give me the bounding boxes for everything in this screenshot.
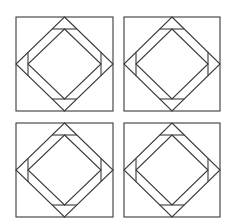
inner-diamond — [136, 135, 208, 205]
tile-top-left — [15, 16, 114, 112]
outer-square — [124, 17, 220, 111]
outer-square — [16, 17, 113, 111]
outer-diamond — [16, 123, 113, 217]
outer-diamond — [16, 17, 113, 111]
outer-diamond — [124, 123, 220, 217]
outer-square — [16, 123, 113, 217]
inner-diamond — [28, 135, 101, 205]
tile-top-right — [123, 16, 221, 112]
inner-diamond — [28, 29, 101, 99]
outer-square — [124, 123, 220, 217]
tile-bottom-left — [15, 122, 114, 218]
inner-diamond — [136, 29, 208, 99]
outer-diamond — [124, 17, 220, 111]
tile-bottom-right — [123, 122, 221, 218]
